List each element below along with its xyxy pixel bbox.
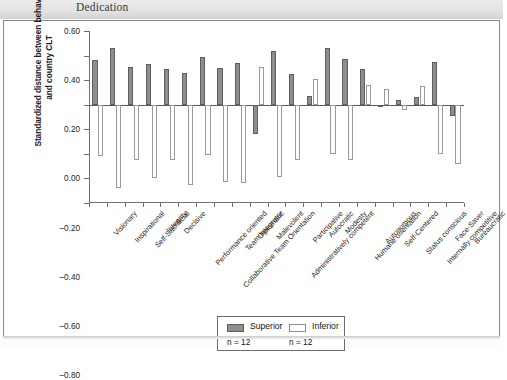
bar-superior <box>289 74 294 105</box>
bar-superior <box>432 62 437 105</box>
y-axis-tick-label: –0.80 <box>60 371 81 380</box>
bar-inferior <box>223 105 228 182</box>
bar-inferior <box>313 79 318 105</box>
bar-inferior <box>152 105 157 179</box>
x-axis-tick <box>410 203 411 207</box>
x-axis-tick <box>303 203 304 207</box>
y-axis-tick: –0.20 <box>84 129 89 130</box>
x-axis-tick <box>232 203 233 207</box>
y-axis-tick-label: –0.60 <box>60 321 81 330</box>
bar-inferior <box>170 105 175 160</box>
legend: Superior Inferior n = 12 n = 12 <box>217 316 345 351</box>
bar-superior <box>253 105 258 134</box>
bar-superior <box>217 68 222 105</box>
y-axis-tick-label: 0.40 <box>64 76 80 85</box>
x-axis-label: Visionary <box>112 209 139 237</box>
bar-inferior <box>205 105 210 155</box>
x-axis-tick <box>196 203 197 207</box>
figure-frame: Standardized distance between behavior a… <box>3 20 500 337</box>
bar-superior <box>128 67 133 105</box>
page-header-band: Dedication <box>0 0 503 19</box>
bar-inferior <box>277 105 282 177</box>
legend-swatch-inferior-icon <box>289 324 306 332</box>
bar-inferior <box>259 67 264 105</box>
x-axis-tick <box>178 203 179 207</box>
figure-shadow <box>3 336 500 339</box>
bar-superior <box>450 105 455 116</box>
y-axis-tick: 0.40 <box>84 56 89 57</box>
x-axis-line <box>89 202 464 203</box>
y-axis-title: Standardized distance between behavior a… <box>33 0 54 153</box>
y-axis-tick-label: –0.40 <box>60 272 81 281</box>
x-axis-tick <box>125 203 126 207</box>
bar-superior <box>182 73 187 105</box>
legend-label-inferior: Inferior <box>312 321 339 331</box>
legend-swatch-superior-icon <box>227 324 244 332</box>
bar-inferior <box>134 105 139 160</box>
page-title: Dedication <box>76 1 128 13</box>
bar-inferior <box>402 105 407 110</box>
x-axis-tick <box>375 203 376 207</box>
bar-superior <box>342 59 347 104</box>
x-axis-tick <box>89 203 90 207</box>
bar-superior <box>307 96 312 105</box>
x-axis-tick <box>214 203 215 207</box>
x-axis-tick <box>250 203 251 207</box>
x-axis-tick <box>464 203 465 207</box>
bar-inferior <box>116 105 121 189</box>
bar-inferior <box>330 105 335 154</box>
x-axis-tick <box>160 203 161 207</box>
bar-superior <box>325 48 330 105</box>
x-axis-tick <box>393 203 394 207</box>
bar-inferior <box>295 105 300 160</box>
y-axis-tick-label: –0.20 <box>60 223 81 232</box>
x-axis-tick <box>285 203 286 207</box>
bar-inferior <box>384 89 389 105</box>
y-axis-tick: 0.00 <box>84 105 89 106</box>
legend-row-labels: Superior Inferior <box>218 320 346 336</box>
bar-superior <box>396 100 401 105</box>
bar-inferior <box>98 105 103 157</box>
bar-inferior <box>438 105 443 154</box>
bar-superior <box>235 63 240 105</box>
bar-superior <box>146 64 151 105</box>
y-axis-tick-label: 0.20 <box>64 125 80 134</box>
y-axis-tick: 0.20 <box>84 80 89 81</box>
plot-area: 0.600.400.200.00–0.20–0.40–0.60–0.80 <box>89 31 464 203</box>
y-axis-tick-label: 0.00 <box>64 174 80 183</box>
bar-inferior <box>241 105 246 184</box>
x-axis-tick <box>143 203 144 207</box>
bar-inferior <box>366 85 371 105</box>
bar-inferior <box>420 86 425 104</box>
bar-inferior <box>455 105 460 164</box>
x-axis-tick <box>357 203 358 207</box>
x-axis-tick <box>268 203 269 207</box>
x-axis-tick <box>321 203 322 207</box>
bar-superior <box>92 60 97 104</box>
bar-superior <box>360 69 365 105</box>
bar-superior <box>200 57 205 105</box>
bar-inferior <box>188 105 193 185</box>
bar-superior <box>378 105 383 107</box>
legend-label-superior: Superior <box>250 321 282 331</box>
y-axis-tick: 0.60 <box>84 31 89 32</box>
bar-superior <box>271 51 276 105</box>
bar-superior <box>414 97 419 104</box>
y-axis-tick: –0.60 <box>84 178 89 179</box>
bar-inferior <box>348 105 353 160</box>
y-axis-tick: –0.40 <box>84 154 89 155</box>
y-axis-line <box>89 31 90 203</box>
bar-superior <box>110 48 115 105</box>
x-axis-tick <box>428 203 429 207</box>
x-axis-tick <box>339 203 340 207</box>
bar-superior <box>164 69 169 105</box>
x-axis-tick <box>107 203 108 207</box>
y-axis-tick-label: 0.60 <box>64 27 80 36</box>
x-axis-tick <box>446 203 447 207</box>
